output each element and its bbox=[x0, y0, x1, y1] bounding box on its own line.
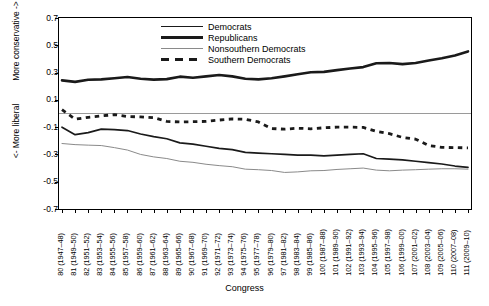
x-axis-tick-labels: 80 (1947–48)81 (1949–50)82 (1951–52)83 (… bbox=[58, 214, 472, 276]
x-axis-tick-mark bbox=[114, 210, 115, 213]
x-axis-tick-mark bbox=[311, 210, 312, 213]
x-axis-tick-label: 81 (1949–50) bbox=[70, 233, 78, 276]
x-axis-tick-mark bbox=[180, 210, 181, 213]
x-axis-tick-mark bbox=[455, 210, 456, 213]
legend-label-republicans: Republicans bbox=[208, 33, 258, 43]
x-axis-tick-mark bbox=[62, 210, 63, 213]
x-axis-tick-label: 90 (1967–68) bbox=[188, 233, 196, 276]
y-axis-tick-label: 0.5 bbox=[32, 41, 58, 50]
legend-swatch-southern-democrats bbox=[161, 54, 203, 65]
y-axis-tick-label: 0.1 bbox=[32, 95, 58, 104]
y-axis-label-liberal: <- More liberal bbox=[11, 71, 21, 191]
legend-item-southern-democrats: Southern Democrats bbox=[161, 54, 371, 65]
x-axis-tick-mark bbox=[389, 210, 390, 213]
series-line-southern-democrats bbox=[62, 110, 468, 148]
x-axis-tick-mark bbox=[167, 210, 168, 213]
chart-figure: 0.70.50.30.1-0.1-0.3-0.5-0.7 More conser… bbox=[0, 0, 489, 306]
y-axis-tick-label: -0.7 bbox=[32, 205, 58, 214]
series-line-democrats bbox=[62, 127, 468, 167]
y-axis-tick-label: 0.3 bbox=[32, 68, 58, 77]
chart-legend: Democrats Republicans Nonsouthern Democr… bbox=[161, 21, 371, 65]
x-axis-tick-mark bbox=[298, 210, 299, 213]
x-axis-tick-mark bbox=[193, 210, 194, 213]
x-axis-tick-label: 107 (2001–02) bbox=[411, 229, 419, 276]
x-axis-tick-label: 84 (1955–56) bbox=[110, 233, 118, 276]
x-axis-tick-mark bbox=[272, 210, 273, 213]
x-axis-tick-mark bbox=[141, 210, 142, 213]
x-axis-tick-label: 94 (1975–76) bbox=[241, 233, 249, 276]
legend-item-nonsouthern-democrats: Nonsouthern Democrats bbox=[161, 43, 371, 54]
x-axis-tick-label: 85 (1957–58) bbox=[123, 233, 131, 276]
x-axis-tick-label: 102 (1991–92) bbox=[345, 229, 353, 276]
x-axis-tick-label: 110 (2007–08) bbox=[450, 230, 458, 276]
x-axis-tick-label: 96 (1979–80) bbox=[267, 233, 275, 276]
x-axis-tick-mark bbox=[101, 210, 102, 213]
x-axis-tick-label: 99 (1985–86) bbox=[306, 233, 314, 276]
x-axis-tick-label: 111 (2009–10) bbox=[463, 230, 471, 276]
x-axis-tick-mark bbox=[337, 210, 338, 213]
x-axis-tick-mark bbox=[258, 210, 259, 213]
x-axis-tick-label: 100 (1987–88) bbox=[319, 229, 327, 276]
x-axis-tick-mark bbox=[285, 210, 286, 213]
x-axis-tick-mark bbox=[403, 210, 404, 213]
x-axis-tick-label: 108 (2003–04) bbox=[424, 229, 432, 276]
y-axis-tick-label: 0.7 bbox=[32, 14, 58, 23]
x-axis-tick-label: 82 (1951–52) bbox=[83, 233, 91, 276]
y-axis-ticks: 0.70.50.30.1-0.1-0.3-0.5-0.7 bbox=[26, 0, 58, 306]
x-axis-tick-mark bbox=[154, 210, 155, 213]
x-axis-title: Congress bbox=[0, 283, 489, 293]
x-axis-tick-mark bbox=[127, 210, 128, 213]
x-axis-tick-mark bbox=[376, 210, 377, 213]
x-axis-tick-mark bbox=[206, 210, 207, 213]
x-axis-tick-mark bbox=[416, 210, 417, 213]
x-axis-tick-label: 88 (1963–64) bbox=[162, 233, 170, 276]
y-axis-tick-label: -0.3 bbox=[32, 150, 58, 159]
x-axis-tick-mark bbox=[232, 210, 233, 213]
legend-label-nonsouthern-democrats: Nonsouthern Democrats bbox=[208, 44, 306, 54]
x-axis-tick-label: 98 (1983–84) bbox=[293, 233, 301, 276]
legend-label-democrats: Democrats bbox=[208, 22, 252, 32]
x-axis-tick-label: 86 (1959–60) bbox=[136, 233, 144, 276]
x-axis-tick-label: 95 (1977–78) bbox=[254, 233, 262, 276]
x-axis-tick-mark bbox=[324, 210, 325, 213]
y-axis-tick-label: -0.5 bbox=[32, 177, 58, 186]
x-axis-tick-label: 92 (1971–72) bbox=[214, 233, 222, 276]
x-axis-tick-label: 103 (1993–94) bbox=[358, 229, 366, 276]
y-axis-tick-label: -0.1 bbox=[32, 123, 58, 132]
x-axis-tick-mark bbox=[442, 210, 443, 213]
x-axis-tick-label: 106 (1999–00) bbox=[398, 229, 406, 276]
x-axis-tick-mark bbox=[88, 210, 89, 213]
legend-swatch-democrats bbox=[161, 21, 203, 32]
x-axis-tick-label: 105 (1997–98) bbox=[385, 229, 393, 276]
x-axis-tick-label: 87 (1961–62) bbox=[149, 233, 157, 276]
x-axis-tick-label: 104 (1995–96) bbox=[372, 229, 380, 276]
x-axis-tick-label: 80 (1947–48) bbox=[57, 233, 65, 276]
legend-item-republicans: Republicans bbox=[161, 32, 371, 43]
legend-label-southern-democrats: Southern Democrats bbox=[208, 55, 291, 65]
x-axis-tick-label: 97 (1981–82) bbox=[280, 233, 288, 276]
series-line-nonsouthern-democrats bbox=[62, 144, 468, 173]
x-axis-tick-label: 101 (1989–90) bbox=[332, 229, 340, 276]
x-axis-tick-mark bbox=[75, 210, 76, 213]
x-axis-tick-label: 91 (1969–70) bbox=[201, 233, 209, 276]
x-axis-tick-mark bbox=[429, 210, 430, 213]
x-axis-tick-mark bbox=[245, 210, 246, 213]
x-axis-tick-mark bbox=[350, 210, 351, 213]
legend-swatch-republicans bbox=[161, 32, 203, 43]
x-axis-tick-mark bbox=[468, 210, 469, 213]
x-axis-tick-label: 89 (1965–66) bbox=[175, 233, 183, 276]
x-axis-tick-label: 109 (2005–06) bbox=[437, 229, 445, 276]
x-axis-tick-label: 93 (1973–74) bbox=[227, 233, 235, 276]
legend-swatch-nonsouthern-democrats bbox=[161, 43, 203, 54]
x-axis-tick-mark bbox=[219, 210, 220, 213]
x-axis-tick-mark bbox=[363, 210, 364, 213]
legend-item-democrats: Democrats bbox=[161, 21, 371, 32]
x-axis-tick-label: 83 (1953–54) bbox=[96, 233, 104, 276]
